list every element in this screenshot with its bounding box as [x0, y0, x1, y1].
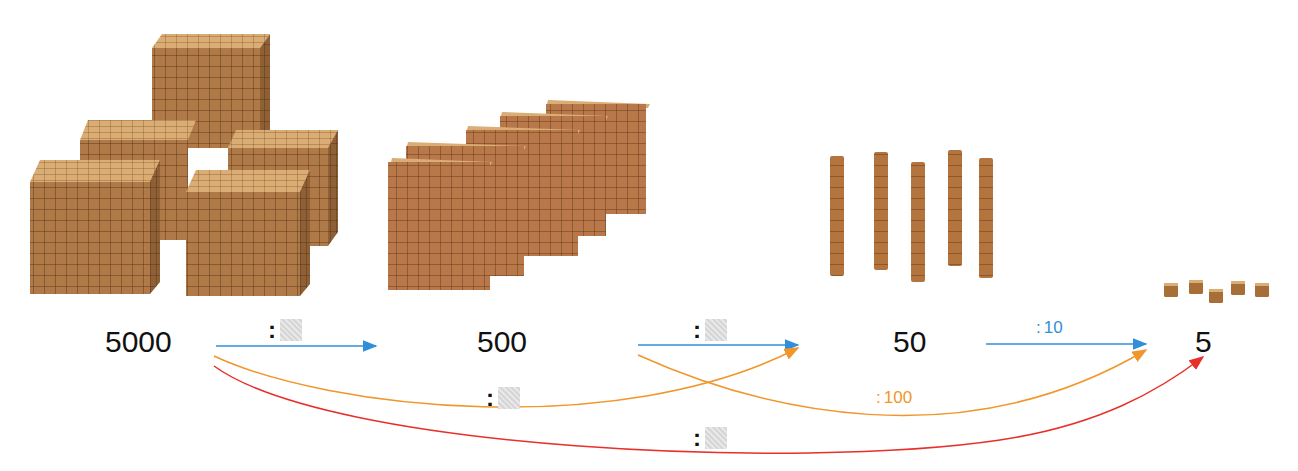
answer-blank[interactable] [498, 387, 520, 409]
place-value-diagram: 5000 500 50 5 : : : 10 : : 100 : [0, 0, 1298, 471]
hundred-flats-icon [388, 100, 650, 290]
answer-blank[interactable] [705, 319, 727, 341]
value-5000: 5000 [105, 327, 172, 357]
answer-blank[interactable] [280, 319, 302, 341]
divisor-label-500-50: : [693, 318, 727, 342]
blocks-and-arrows [0, 0, 1298, 471]
thousand-cubes-icon [30, 34, 338, 296]
unit-cubes-icon [1164, 280, 1269, 303]
value-50: 50 [893, 327, 926, 357]
answer-blank[interactable] [705, 427, 727, 449]
divisor-label-5000-5: : [693, 426, 727, 450]
value-500: 500 [477, 327, 527, 357]
divisor-label-5000-50: : [486, 386, 520, 410]
divisor-label-500-5: : 100 [876, 389, 912, 406]
divisor-label-50-5: : 10 [1036, 319, 1063, 336]
ten-rods-icon [830, 150, 993, 282]
value-5: 5 [1195, 327, 1212, 357]
divisor-label-5000-500: : [268, 318, 302, 342]
